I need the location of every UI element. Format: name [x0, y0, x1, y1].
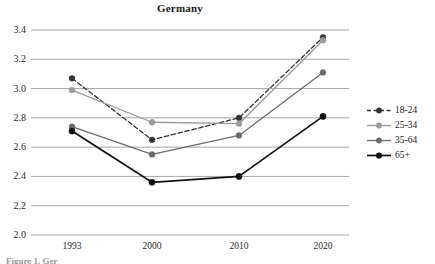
chart-legend: 18-2425-3435-6465+	[366, 103, 434, 163]
legend-marker-icon	[366, 118, 392, 133]
data-point	[149, 119, 155, 125]
y-tick-label: 2.0	[0, 229, 26, 240]
legend-marker-icon	[366, 133, 392, 148]
data-point	[236, 173, 242, 179]
data-point	[320, 70, 326, 76]
chart-figure: Germany 3.43.23.02.82.62.42.22.0 1993200…	[0, 0, 435, 264]
data-point	[320, 37, 326, 43]
legend-item-35-64: 35-64	[366, 133, 434, 148]
data-point	[69, 87, 75, 93]
x-tick-label: 2000	[130, 241, 174, 251]
series-line-65+	[72, 116, 323, 182]
data-point	[149, 179, 155, 185]
x-tick-label: 2020	[301, 241, 345, 251]
y-tick-label: 3.4	[0, 24, 26, 35]
legend-label: 35-64	[395, 133, 417, 148]
data-point	[236, 133, 242, 139]
legend-label: 25-34	[395, 118, 417, 133]
y-tick-label: 3.0	[0, 83, 26, 94]
data-point	[320, 113, 326, 119]
legend-label: 65+	[395, 148, 410, 163]
y-tick-label: 2.2	[0, 200, 26, 211]
legend-item-18-24: 18-24	[366, 103, 434, 118]
legend-item-25-34: 25-34	[366, 118, 434, 133]
y-tick-label: 2.6	[0, 141, 26, 152]
data-point	[149, 137, 155, 143]
legend-marker-icon	[366, 148, 392, 163]
x-tick-label: 2010	[217, 241, 261, 251]
legend-label: 18-24	[395, 103, 417, 118]
y-tick-label: 2.8	[0, 112, 26, 123]
data-point	[149, 152, 155, 158]
data-point	[236, 121, 242, 127]
legend-marker-icon	[366, 103, 392, 118]
legend-item-65+: 65+	[366, 148, 434, 163]
data-point	[236, 115, 242, 121]
figure-footnote: Figure 1. Ger	[6, 256, 58, 264]
y-tick-label: 2.4	[0, 170, 26, 181]
series-line-25-34	[72, 40, 323, 123]
x-tick-label: 1993	[50, 241, 94, 251]
series-line-35-64	[72, 72, 323, 154]
data-point	[69, 75, 75, 81]
y-tick-label: 3.2	[0, 53, 26, 64]
data-point	[69, 128, 75, 134]
